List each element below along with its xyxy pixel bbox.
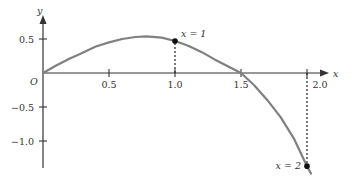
y-tick-label: 0.5 xyxy=(19,34,34,45)
axes: xyO0.51.01.52.00.5−0.5−1.0 xyxy=(11,5,339,168)
curve xyxy=(43,36,311,173)
data-point xyxy=(172,38,178,44)
x-axis-label: x xyxy=(333,68,339,79)
x-tick-label: 2.0 xyxy=(312,79,327,90)
x-tick-label: 0.5 xyxy=(101,79,116,90)
x-axis-arrow-icon xyxy=(320,70,329,77)
point-label: x = 2 xyxy=(276,160,301,171)
y-axis-label: y xyxy=(36,5,43,16)
point-label: x = 1 xyxy=(181,28,206,39)
y-axis-arrow-icon xyxy=(40,15,47,24)
x-tick-label: 1.5 xyxy=(233,79,248,90)
chart: xyO0.51.01.52.00.5−0.5−1.0 x = 1x = 2 xyxy=(0,0,362,186)
series-line xyxy=(43,36,311,173)
y-tick-label: −1.0 xyxy=(11,136,34,147)
data-point xyxy=(304,163,310,169)
x-tick-label: 1.0 xyxy=(167,79,182,90)
highlighted-points: x = 1x = 2 xyxy=(172,28,310,171)
origin-label: O xyxy=(30,76,38,87)
y-tick-label: −0.5 xyxy=(11,102,34,113)
